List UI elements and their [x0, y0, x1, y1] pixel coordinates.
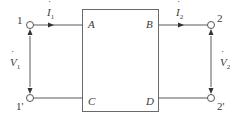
corner-A-label: A — [88, 19, 95, 30]
corner-B-label: B — [146, 19, 153, 30]
terminal-2p-icon — [208, 95, 215, 102]
diagram-lines — [0, 0, 240, 117]
terminal-2-label: 2 — [217, 13, 223, 24]
terminal-2-icon — [208, 22, 215, 29]
corner-C-label: C — [88, 96, 95, 107]
terminal-1p-icon — [27, 95, 34, 102]
voltage-V2-label: V2 — [220, 57, 230, 68]
terminal-1-label: 1 — [17, 15, 23, 26]
current-arrow-2-icon — [178, 23, 184, 28]
current-arrow-1-icon — [48, 23, 54, 28]
corner-D-label: D — [146, 96, 154, 107]
terminal-1-icon — [27, 22, 34, 29]
terminal-1p-label: 1' — [16, 101, 23, 112]
voltage-V1-label: V1 — [10, 57, 20, 68]
current-I2-label: I2 — [176, 7, 183, 18]
current-I1-label: I1 — [47, 7, 54, 18]
terminal-2p-label: 2' — [217, 101, 224, 112]
two-port-diagram: 1 1' 2 2' A B C D I1 I2 V1 V2 — [0, 0, 240, 117]
